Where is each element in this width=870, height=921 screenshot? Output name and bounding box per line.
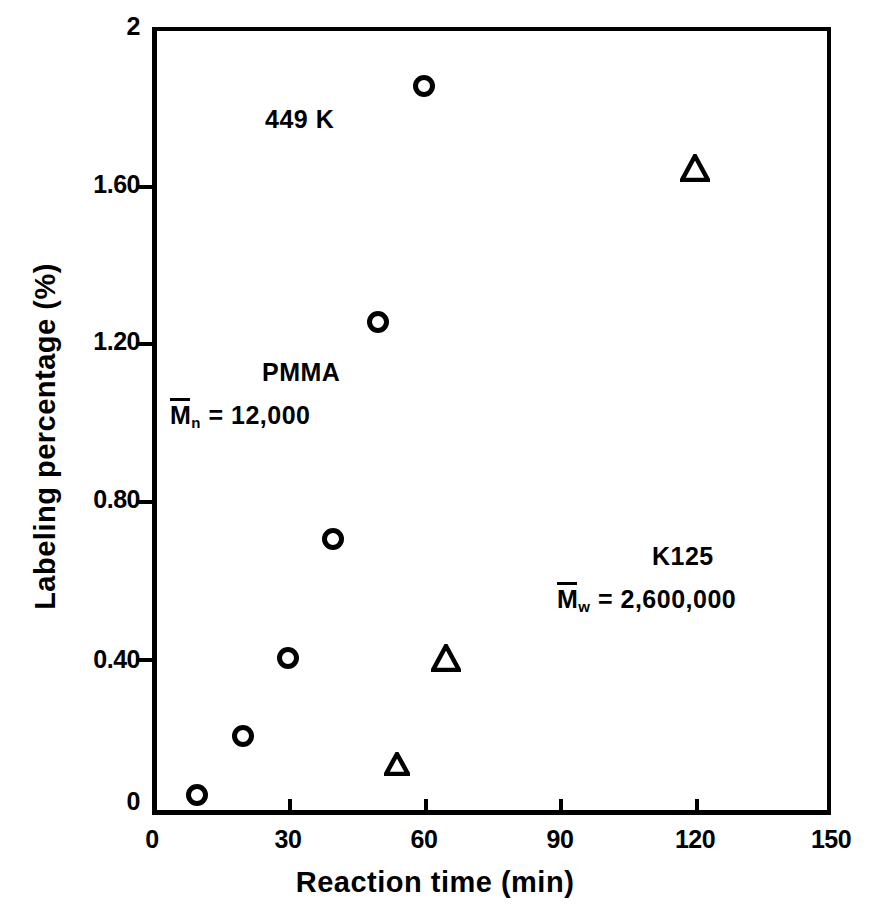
x-tick-label-120: 120: [665, 825, 725, 854]
y-tick-1-20: [136, 342, 152, 346]
annotation-k125-name: K125: [652, 542, 714, 571]
data-point-circle: [367, 311, 389, 333]
plot-area: 449 K PMMA Mn = 12,000 K125 Mw = 2,600,0…: [152, 27, 831, 815]
pmma-mn-subscript: n: [191, 414, 201, 431]
x-tick-120: [695, 799, 699, 815]
y-tick-1-60: [136, 185, 152, 189]
data-point-circle: [413, 75, 435, 97]
annotation-temperature: 449 K: [265, 105, 334, 134]
data-point-circle: [322, 528, 344, 550]
x-tick-30: [288, 799, 292, 815]
x-tick-90: [559, 799, 563, 815]
data-point-circle: [186, 784, 208, 806]
k125-mw-subscript: w: [578, 598, 590, 615]
pmma-mn-overbar-symbol: M: [170, 401, 191, 430]
annotation-pmma-name: PMMA: [262, 358, 340, 387]
y-tick-label-0: 0: [127, 787, 140, 816]
y-tick-label-2: 2: [127, 12, 140, 41]
data-point-circle: [232, 725, 254, 747]
annotation-pmma-mn: Mn = 12,000: [170, 401, 310, 430]
annotation-k125-mw: Mw = 2,600,000: [557, 585, 736, 614]
y-tick-label-0-80: 0.80: [93, 485, 140, 514]
y-axis-title: Labeling percentage (%): [29, 87, 62, 787]
x-tick-label-0: 0: [122, 825, 182, 854]
pmma-mn-value: = 12,000: [208, 401, 310, 429]
x-tick-60: [424, 799, 428, 815]
x-axis-title: Reaction time (min): [0, 866, 870, 899]
y-tick-label-0-40: 0.40: [93, 645, 140, 674]
x-tick-label-30: 30: [258, 825, 318, 854]
x-tick-label-150: 150: [801, 825, 861, 854]
x-tick-label-90: 90: [530, 825, 590, 854]
y-tick-label-1-20: 1.20: [93, 327, 140, 356]
y-tick-0-40: [136, 658, 152, 662]
y-tick-0-80: [136, 500, 152, 504]
chart-figure: Labeling percentage (%) Reaction time (m…: [0, 0, 870, 921]
k125-mw-value: = 2,600,000: [598, 585, 736, 613]
x-tick-label-60: 60: [394, 825, 454, 854]
y-tick-label-1-60: 1.60: [93, 170, 140, 199]
data-point-circle: [277, 647, 299, 669]
k125-mw-overbar-symbol: M: [557, 585, 578, 614]
